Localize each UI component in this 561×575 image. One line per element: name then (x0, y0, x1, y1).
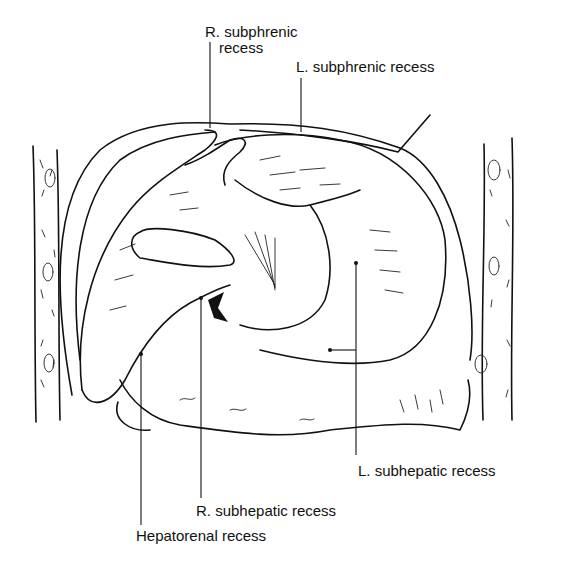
label-r-subphrenic-line1: R. subphrenic (205, 24, 298, 40)
label-l-subhepatic: L. subhepatic recess (358, 463, 496, 479)
right-body-wall (475, 138, 513, 420)
label-r-subhepatic: R. subhepatic recess (196, 503, 336, 519)
label-l-subphrenic: L. subphrenic recess (296, 59, 434, 75)
left-body-wall (33, 146, 60, 422)
anatomy-drawing (0, 0, 561, 575)
label-r-subphrenic-line2: recess (205, 40, 298, 56)
label-r-subphrenic: R. subphrenic recess (205, 24, 298, 56)
label-hepatorenal: Hepatorenal recess (136, 528, 266, 544)
